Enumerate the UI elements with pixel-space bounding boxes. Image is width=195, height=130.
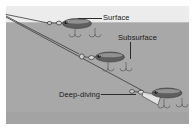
lure-body-highlight bbox=[98, 53, 123, 57]
lure-body-highlight bbox=[65, 20, 90, 24]
surface-leader-line bbox=[78, 18, 102, 19]
subsurface-leader-line bbox=[130, 42, 131, 59]
lure-eye bbox=[155, 91, 158, 94]
treble-hooks bbox=[69, 28, 101, 37]
lure-body-highlight bbox=[154, 89, 180, 93]
lure-eye bbox=[98, 55, 101, 58]
deep-diving-lure bbox=[130, 88, 188, 108]
treble-hooks bbox=[102, 62, 132, 71]
deep-diving-leader-line bbox=[101, 94, 136, 95]
label-deep-diving: Deep-diving bbox=[59, 90, 100, 99]
lure-depth-diagram: Surface Subsurface Deep-diving bbox=[0, 0, 195, 130]
illustration-svg bbox=[6, 6, 189, 124]
treble-hooks bbox=[158, 98, 188, 108]
line-surface bbox=[6, 14, 48, 23]
label-subsurface: Subsurface bbox=[118, 33, 157, 42]
snap-hardware bbox=[79, 54, 98, 60]
subsurface-lure bbox=[79, 52, 131, 71]
lure-eye bbox=[65, 21, 68, 24]
illustration-frame: Surface Subsurface Deep-diving bbox=[6, 6, 189, 124]
surface-lure bbox=[47, 19, 101, 38]
label-surface: Surface bbox=[103, 13, 130, 22]
